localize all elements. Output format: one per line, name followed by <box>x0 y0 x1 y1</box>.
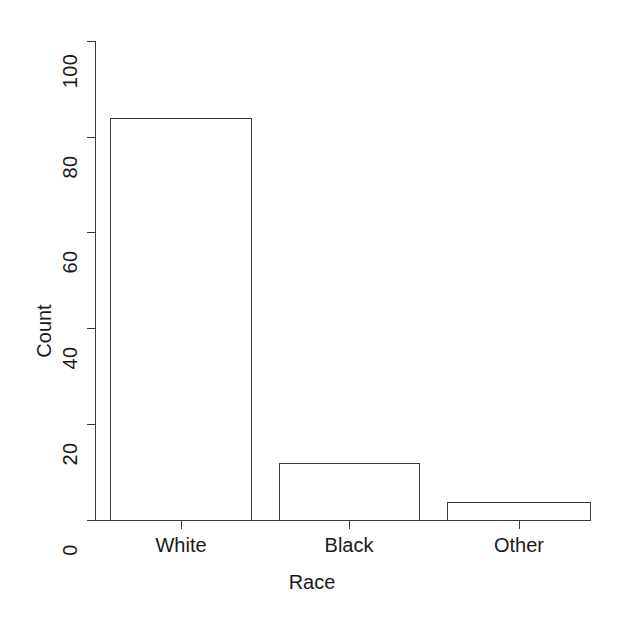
x-axis-tick-label-other: Other <box>449 533 589 557</box>
x-axis-title: Race <box>0 570 624 594</box>
y-axis-tick-label-80: 80 <box>60 137 80 197</box>
x-axis-tick-other <box>519 521 520 529</box>
y-axis-tick-40 <box>87 328 95 329</box>
bar-black <box>279 463 420 521</box>
x-axis-tick-label-black: Black <box>279 533 419 557</box>
y-axis-tick-60 <box>87 232 95 233</box>
x-axis-tick-label-white: White <box>111 533 251 557</box>
barplot-figure: 0 20 40 60 80 100 Count White Black Othe… <box>0 0 624 617</box>
bar-white <box>110 118 252 521</box>
y-axis-title: Count <box>34 271 54 391</box>
bar-other <box>447 502 591 521</box>
y-axis-tick-0 <box>87 520 95 521</box>
x-axis-tick-black <box>349 521 350 529</box>
y-axis-tick-label-100: 100 <box>60 41 80 101</box>
x-axis-tick-white <box>181 521 182 529</box>
y-axis-tick-100 <box>87 41 95 42</box>
y-axis-tick-label-40: 40 <box>60 328 80 388</box>
y-axis-tick-label-60: 60 <box>60 232 80 292</box>
y-axis-tick-label-20: 20 <box>60 424 80 484</box>
y-axis-tick-80 <box>87 137 95 138</box>
y-axis-line <box>95 41 96 521</box>
y-axis-tick-20 <box>87 424 95 425</box>
